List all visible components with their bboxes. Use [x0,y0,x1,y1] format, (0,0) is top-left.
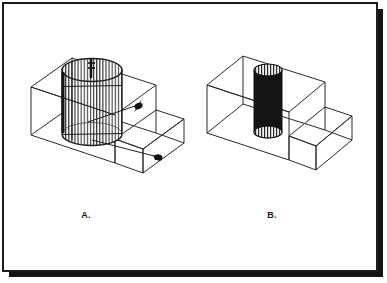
figure-a-label: A. [73,211,99,220]
figure-b-label: B. [259,211,285,220]
page-frame [3,3,377,271]
figure-b-cylinder [254,64,282,138]
technical-drawing-canvas [0,0,387,283]
figure-page: A. B. [0,0,387,283]
